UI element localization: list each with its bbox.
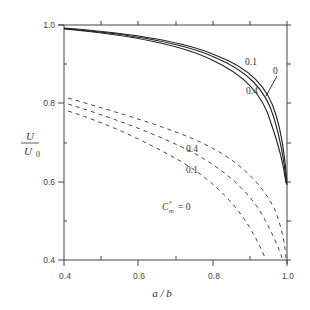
y-tick-0.8: 0.8 <box>43 98 55 108</box>
svg-text:= 0: = 0 <box>178 202 191 212</box>
label-dashed-cm-0: C * m = 0 <box>162 200 191 214</box>
solid-curve-cm-0 <box>64 28 287 185</box>
x-tick-1.0: 1.0 <box>282 271 294 281</box>
y-axis-numerator: U <box>26 130 35 142</box>
label-pointer-line <box>266 76 277 96</box>
solid-curve-cm-0.4 <box>64 29 286 183</box>
y-axis-denominator-sub: 0 <box>36 150 40 159</box>
solid-curves <box>64 28 287 185</box>
dashed-curve-cm-0 <box>68 111 265 258</box>
solid-curve-cm-0.1 <box>64 29 287 185</box>
dashed-curves <box>68 98 286 258</box>
x-axis-title: a / b <box>152 287 172 299</box>
x-tick-0.6: 0.6 <box>133 271 145 281</box>
y-tick-0.4: 0.4 <box>43 255 55 265</box>
x-tick-0.8: 0.8 <box>208 271 220 281</box>
y-tick-1.0: 1.0 <box>43 20 55 30</box>
label-solid-0.1: 0.1 <box>245 57 257 67</box>
label-solid-0: 0 <box>273 66 278 76</box>
y-axis-title: U U 0 <box>21 130 40 159</box>
svg-text:m: m <box>169 207 174 214</box>
annotations: 0.1 0 0.4 0.4 0.1 C * m = 0 <box>162 57 278 214</box>
label-dashed-0.4: 0.4 <box>186 144 198 154</box>
label-dashed-0.1: 0.1 <box>186 165 198 175</box>
y-axis-denominator: U <box>24 145 33 157</box>
dashed-curve-cm-0.1 <box>68 104 282 258</box>
x-tick-0.4: 0.4 <box>59 271 71 281</box>
chart: 1.0 0.8 0.6 0.4 0.4 0.6 0.8 1.0 a / b U … <box>0 0 310 310</box>
label-solid-0.4: 0.4 <box>246 86 258 96</box>
svg-text:*: * <box>169 200 172 206</box>
x-tick-labels: 0.4 0.6 0.8 1.0 <box>59 271 294 281</box>
y-tick-labels: 1.0 0.8 0.6 0.4 <box>43 20 55 265</box>
y-tick-0.6: 0.6 <box>43 177 55 187</box>
svg-text:C: C <box>162 202 169 212</box>
